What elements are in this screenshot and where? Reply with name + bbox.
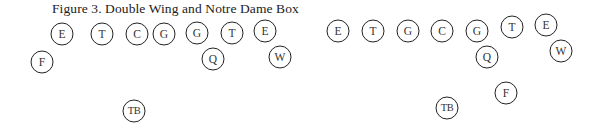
player-circle-t: T [362,20,385,43]
player-circle-tb: TB [436,97,459,120]
figure-title: Figure 3. Double Wing and Notre Dame Box [52,1,288,17]
player-circle-w: W [269,46,292,69]
player-circle-g: G [397,20,420,43]
player-circle-g: G [186,22,209,45]
player-circle-f: F [495,82,518,105]
player-circle-e: E [254,20,277,43]
player-circle-e: E [327,20,350,43]
player-circle-t: T [221,22,244,45]
player-circle-tb: TB [123,100,146,123]
player-circle-w: W [550,40,573,63]
player-circle-c: C [431,20,454,43]
player-circle-t: T [91,23,114,46]
player-circle-c: C [126,23,149,46]
player-circle-f: F [31,51,54,74]
player-circle-g: G [466,20,489,43]
player-circle-e: E [535,14,558,37]
player-circle-e: E [51,23,74,46]
player-circle-q: Q [202,48,225,71]
player-circle-g: G [153,23,176,46]
player-circle-t: T [501,16,524,39]
player-circle-q: Q [476,46,499,69]
